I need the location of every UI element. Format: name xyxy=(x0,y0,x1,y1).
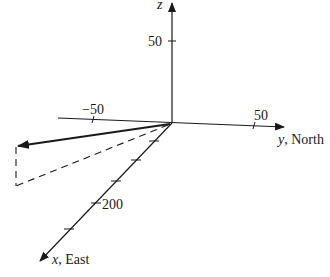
diagram-canvas: z 50 −50 50 y, North 200 x, East xyxy=(0,0,330,277)
y-tick-label-50: 50 xyxy=(254,108,268,123)
y-axis-label: y, North xyxy=(276,132,324,147)
z-axis xyxy=(168,3,176,123)
z-tick-label-50: 50 xyxy=(148,34,162,49)
projection-dashed xyxy=(16,125,168,186)
x-tick-label-200: 200 xyxy=(102,197,123,212)
x-axis xyxy=(40,123,172,261)
y-tick-label-neg50: −50 xyxy=(82,102,104,117)
y-axis xyxy=(58,116,284,129)
displacement-vector xyxy=(18,124,170,146)
x-axis-label: x, East xyxy=(51,252,89,267)
z-axis-label: z xyxy=(156,0,163,12)
